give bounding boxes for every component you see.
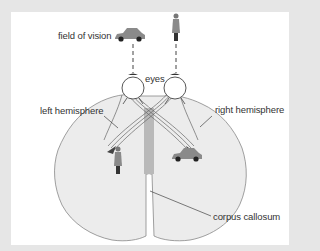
field-of-vision-label: field of vision — [58, 30, 111, 41]
corpus-callosum-label: corpus callosum — [213, 211, 280, 222]
right-hemisphere-label: right hemisphere — [215, 104, 284, 115]
left-hemisphere-label: left hemisphere — [40, 105, 103, 116]
eyes-label: eyes — [145, 73, 165, 84]
person-icon — [172, 14, 180, 42]
car-icon — [115, 28, 145, 42]
